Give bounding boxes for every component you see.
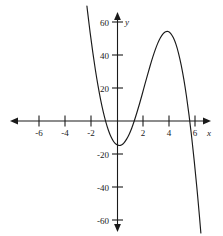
x-tick-label-2: 2: [141, 128, 146, 138]
cubic-curve: [87, 6, 201, 233]
y-tick-label-minus40: -40: [97, 183, 109, 193]
y-tick-label-20: 20: [100, 84, 110, 94]
y-axis-label: y: [124, 17, 129, 27]
y-tick-label-40: 40: [100, 51, 110, 61]
x-axis-label: x: [206, 128, 211, 138]
x-tick-label-minus6: -6: [35, 128, 43, 138]
x-axis-right-arrow-icon: [203, 118, 211, 125]
y-axis: 60 40 20 -20 -40 -60 y: [97, 12, 129, 232]
y-tick-label-minus20: -20: [97, 150, 109, 160]
x-tick-label-minus2: -2: [87, 128, 95, 138]
graph-figure: -6 -4 -2 2 4 6 x 60 40 20 -20 -40 -60 y: [0, 0, 223, 236]
x-tick-label-4: 4: [167, 128, 172, 138]
x-axis-left-arrow-icon: [10, 118, 18, 125]
x-tick-label-6: 6: [193, 128, 198, 138]
coordinate-plane: -6 -4 -2 2 4 6 x 60 40 20 -20 -40 -60 y: [0, 0, 223, 236]
x-tick-label-minus4: -4: [61, 128, 69, 138]
y-tick-label-60: 60: [100, 18, 110, 28]
y-axis-down-arrow-icon: [114, 224, 121, 232]
y-tick-label-minus60: -60: [97, 216, 109, 226]
y-axis-up-arrow-icon: [114, 12, 121, 20]
